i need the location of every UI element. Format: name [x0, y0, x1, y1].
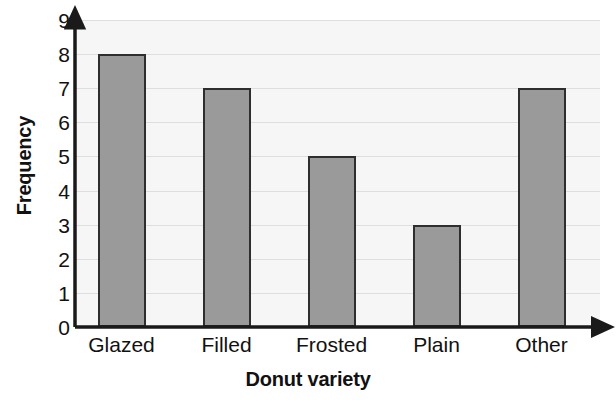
y-axis-tick-label: 9 — [44, 10, 70, 31]
x-axis-title: Donut variety — [0, 368, 616, 391]
y-axis-tick-label: 6 — [44, 112, 70, 133]
y-axis-tick-label: 3 — [44, 214, 70, 235]
bar — [308, 156, 356, 327]
y-axis-title: Frequency — [4, 0, 46, 330]
bar — [413, 225, 461, 327]
y-axis-tick-label: 8 — [44, 44, 70, 65]
y-axis-tick-label: 7 — [44, 78, 70, 99]
y-axis-tick-labels: 0123456789 — [44, 0, 70, 407]
y-axis-tick-label: 2 — [44, 248, 70, 269]
y-axis-tick-label: 0 — [44, 317, 70, 338]
plot-area — [75, 20, 600, 327]
x-axis-category-label: Plain — [413, 333, 460, 357]
bar — [98, 54, 146, 327]
x-axis-category-label: Frosted — [296, 333, 367, 357]
y-axis-tick-label: 5 — [44, 146, 70, 167]
x-axis-category-label: Other — [515, 333, 568, 357]
y-axis-title-text: Frequency — [14, 115, 37, 214]
bars-layer — [75, 20, 600, 327]
x-axis-category-labels: GlazedFilledFrostedPlainOther — [75, 333, 600, 363]
bar — [518, 88, 566, 327]
y-axis-tick-label: 1 — [44, 282, 70, 303]
x-axis-category-label: Glazed — [88, 333, 155, 357]
bar-chart-figure: Frequency 0123456789 GlazedFilledFrosted… — [0, 0, 616, 407]
x-axis-category-label: Filled — [201, 333, 251, 357]
bar — [203, 88, 251, 327]
y-axis-tick-label: 4 — [44, 180, 70, 201]
